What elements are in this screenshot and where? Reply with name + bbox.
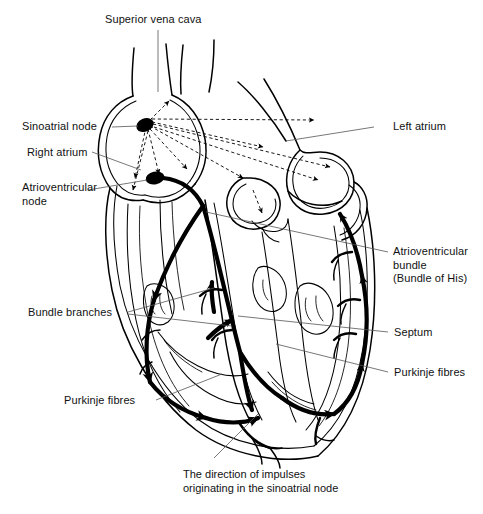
label-septum: Septum bbox=[394, 326, 433, 340]
label-av-bundle-line3: (Bundle of His) bbox=[393, 272, 467, 284]
label-av-bundle-line1: Atrioventricular bbox=[393, 245, 468, 257]
leader-purkinje-right bbox=[276, 344, 388, 372]
caption-line2: originating in the sinoatrial node bbox=[183, 482, 338, 494]
label-purkinje-fibres-left: Purkinje fibres bbox=[64, 394, 135, 408]
label-right-atrium: Right atrium bbox=[27, 146, 88, 160]
interventricular-septum bbox=[205, 200, 318, 424]
atrioventricular-valve-pocket bbox=[227, 178, 288, 242]
figure-caption: The direction of impulses originating in… bbox=[183, 467, 338, 495]
label-superior-vena-cava: Superior vena cava bbox=[105, 13, 202, 27]
label-left-atrium: Left atrium bbox=[393, 120, 446, 134]
pulmonary-artery-vessel bbox=[181, 40, 214, 94]
aorta-vessel bbox=[238, 79, 300, 150]
leader-atrioventricular-bundle bbox=[206, 212, 388, 252]
leader-bundle-branches-b bbox=[128, 314, 232, 326]
superior-vena-cava-vessel bbox=[132, 44, 172, 96]
purkinje-fibres-left-ventricle bbox=[282, 214, 367, 444]
leader-sinoatrial-node bbox=[112, 126, 138, 127]
label-bundle-branches: Bundle branches bbox=[28, 306, 112, 320]
label-purkinje-fibres-right: Purkinje fibres bbox=[394, 366, 465, 380]
label-atrioventricular-bundle: Atrioventricular bundle (Bundle of His) bbox=[393, 245, 481, 286]
heart-conduction-diagram: Superior vena cava Sinoatrial node Right… bbox=[0, 0, 483, 514]
leader-left-atrium bbox=[286, 127, 374, 141]
label-atrioventricular-node: Atrioventricular node bbox=[22, 181, 108, 208]
label-atrioventricular-node-line1: Atrioventricular bbox=[22, 181, 97, 193]
label-av-bundle-line2: bundle bbox=[393, 259, 427, 271]
sinoatrial-node-marker bbox=[134, 115, 156, 134]
caption-line1: The direction of impulses bbox=[183, 468, 305, 480]
left-atrium-chamber bbox=[287, 150, 367, 240]
bundle-branch-right-path bbox=[147, 206, 206, 418]
label-sinoatrial-node: Sinoatrial node bbox=[22, 120, 97, 134]
label-atrioventricular-node-line2: node bbox=[22, 195, 47, 207]
impulse-rays bbox=[133, 101, 330, 213]
right-ventricle-wall bbox=[127, 200, 256, 412]
